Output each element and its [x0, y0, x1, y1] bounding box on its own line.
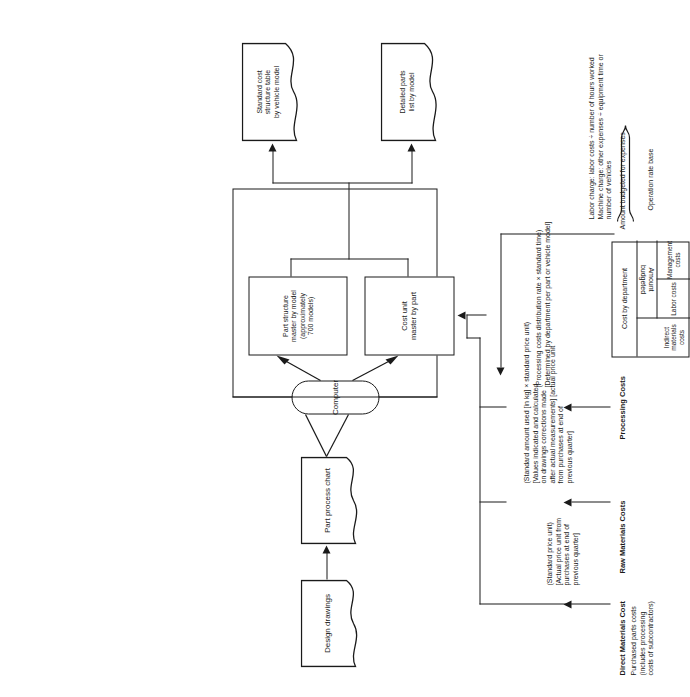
node-design-drawings: Design drawings [300, 579, 362, 667]
arrow-icon [496, 367, 504, 375]
table-rule [656, 278, 690, 279]
connector-processing-costs-arrow-shaft [571, 406, 610, 407]
table-header-cost-by-department: Cost by department [612, 240, 636, 356]
connector-raw-materials-arrow-shaft [571, 501, 610, 502]
label-raw-materials-costs-heading: Raw Materials Costs [617, 453, 626, 573]
node-standard-cost-structure-table: Standard cost structure table by vehicle… [241, 42, 303, 141]
node-label: Detailed parts list by model [398, 70, 424, 113]
connector-cost-bus-left-end [479, 603, 571, 604]
connector-boundary-to-computer-top [232, 396, 292, 397]
connector-bus-tap-raw-materials [479, 501, 506, 502]
node-detailed-parts-list: Detailed parts list by model [380, 42, 442, 141]
label-rate-base-formulas: Labor charge: labor costs ÷ number of ho… [587, 0, 613, 219]
table-row-labor-costs: Labor costs [656, 279, 690, 318]
node-cost-unit-master: Cost unit master by part [364, 276, 454, 355]
arrow-icon [268, 143, 276, 151]
connector-output-riser [272, 182, 412, 183]
connector-system-output-trunk [348, 182, 349, 259]
node-part-process-chart: Part process chart [300, 456, 362, 544]
processing-costs-table: Cost by department Amount budgeted Indir… [611, 241, 689, 357]
table-row-indirect-materials-costs: Indirect materials costs [656, 318, 690, 356]
arrow-icon [563, 499, 571, 507]
connector-masters-loop-top [290, 258, 291, 276]
table-row-management-costs: Management costs [656, 240, 690, 279]
table-header-amount-budgeted: Amount budgeted [636, 240, 656, 318]
node-label: Part process chart [322, 468, 340, 533]
arrow-icon [563, 601, 571, 609]
connector-rate-base-riser [500, 233, 614, 234]
label-direct-materials-cost-subtitle: Purchased parts costs (includes processi… [629, 545, 655, 675]
connector-direct-materials-arrow-shaft [571, 603, 610, 604]
node-label: Design drawings [322, 593, 340, 652]
label-operation-rate-base: Operation rate base [646, 30, 655, 210]
connector-drawings-to-chart [326, 552, 327, 579]
connector-rate-base-to-processing [500, 233, 501, 367]
connector-inputs-bus-short [466, 314, 467, 338]
connector-output-to-std-cost [272, 150, 273, 183]
connector-inputs-to-cost-unit-master [466, 314, 486, 315]
arrow-icon [457, 312, 465, 320]
arrow-icon [407, 143, 415, 151]
label-amount-budgeted-for-expenses: Amount budgeted for expenses [618, 49, 627, 229]
connector-output-to-parts-list [411, 150, 412, 183]
connector-cost-bus-main [479, 337, 480, 604]
node-label: Part structure master by model (approxim… [281, 290, 314, 342]
arrow-icon [322, 545, 330, 553]
connector-inputs-bus-drop [466, 337, 480, 338]
connector-masters-loop-bottom [407, 258, 408, 276]
processing-costs-table-title: Processing Costs [617, 376, 626, 439]
connector-boundary-to-computer-bottom [378, 396, 437, 397]
note-processing-costs: (Processing costs distribution rate × st… [534, 127, 551, 387]
arrow-icon [563, 404, 571, 412]
node-part-structure-master: Part structure master by model (approxim… [248, 276, 347, 355]
node-label: Cost unit master by part [400, 292, 418, 340]
node-label: Standard cost structure table by vehicle… [255, 65, 289, 117]
connector-bus-tap-processing [479, 406, 506, 407]
